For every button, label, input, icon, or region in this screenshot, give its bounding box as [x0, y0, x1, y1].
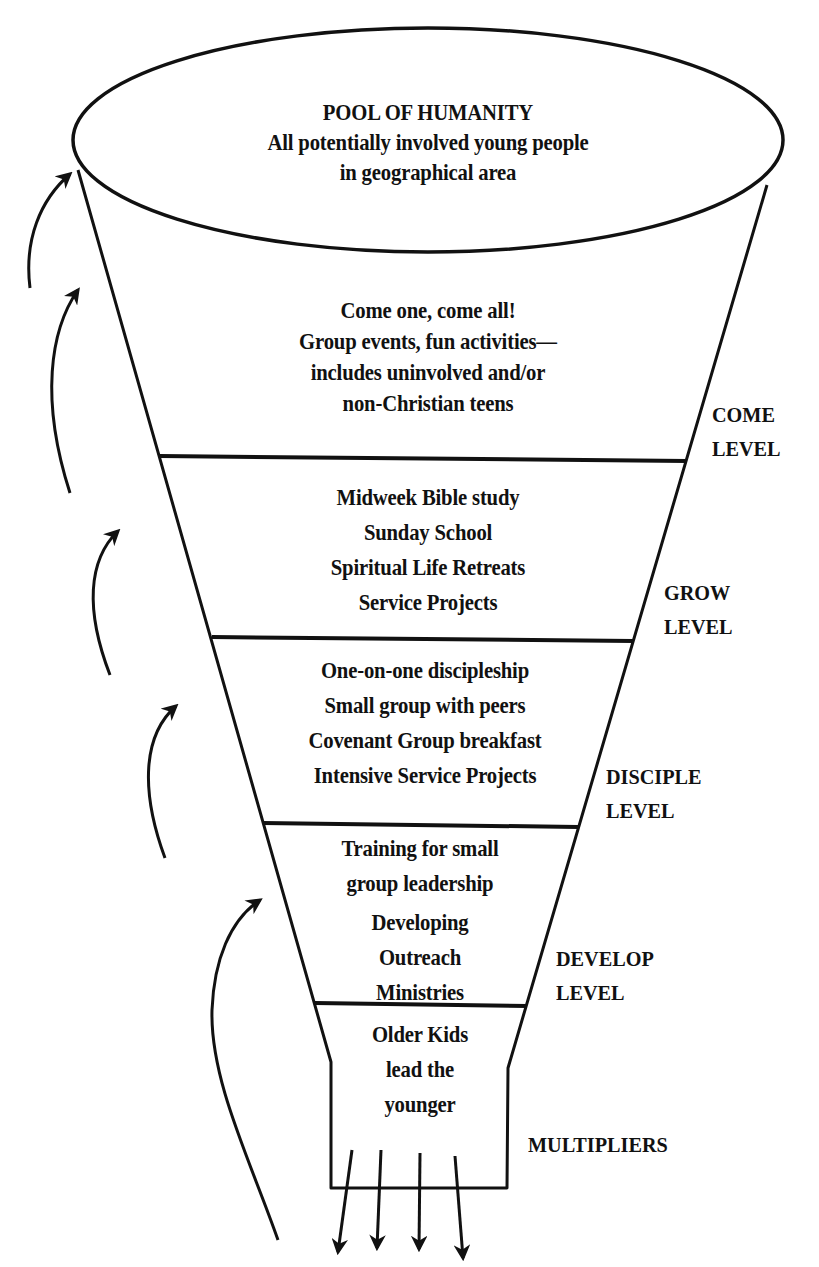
- level-line: younger: [330, 1087, 510, 1122]
- level-line: Sunday School: [212, 515, 644, 550]
- divider-grow-disciple: [212, 637, 633, 641]
- level-come-text: Come one, come all! Group events, fun ac…: [203, 295, 653, 419]
- level-grow-text: Midweek Bible study Sunday School Spirit…: [212, 480, 644, 620]
- level-line: Ministries: [285, 975, 555, 1010]
- level-line: Intensive Service Projects: [218, 758, 632, 793]
- arrow-up-icon: [148, 706, 176, 858]
- arrow-up-icon: [29, 174, 70, 288]
- pool-line: All potentially involved young people: [203, 128, 653, 158]
- level-line: Small group with peers: [218, 688, 632, 723]
- arrow-down-icon: [377, 1150, 381, 1248]
- arrow-up-icon: [52, 290, 78, 493]
- level-develop-text: Training for small group leadership Deve…: [285, 831, 555, 1010]
- level-line: Outreach: [285, 940, 555, 975]
- level-disciple-text: One-on-one discipleship Small group with…: [218, 653, 632, 793]
- level-come-label: COME LEVEL: [712, 398, 781, 466]
- arrow-down-icon: [419, 1153, 420, 1249]
- level-multipliers-label: MULTIPLIERS: [528, 1128, 668, 1162]
- level-line: Older Kids: [330, 1017, 510, 1052]
- level-line: Come one, come all!: [203, 295, 653, 326]
- level-line: One-on-one discipleship: [218, 653, 632, 688]
- level-develop-label: DEVELOP LEVEL: [556, 942, 654, 1010]
- level-line: Midweek Bible study: [212, 480, 644, 515]
- pool-line: in geographical area: [203, 158, 653, 188]
- arrow-up-icon: [212, 900, 278, 1240]
- level-disciple-label: DISCIPLE LEVEL: [606, 760, 702, 828]
- level-grow-label: GROW LEVEL: [664, 576, 733, 644]
- arrow-down-icon: [338, 1150, 352, 1252]
- divider-come-grow: [160, 456, 687, 461]
- level-line: group leadership: [285, 866, 555, 901]
- output-arrows: [338, 1150, 463, 1258]
- level-line: Covenant Group breakfast: [218, 723, 632, 758]
- level-line: non-Christian teens: [203, 388, 653, 419]
- pool-text: POOL OF HUMANITY All potentially involve…: [203, 98, 653, 188]
- level-line: Training for small: [285, 831, 555, 866]
- level-line: Spiritual Life Retreats: [212, 550, 644, 585]
- level-line: includes uninvolved and/or: [203, 357, 653, 388]
- level-line: Developing: [285, 905, 555, 940]
- arrow-down-icon: [455, 1156, 463, 1258]
- level-line: Service Projects: [212, 585, 644, 620]
- arrow-up-icon: [93, 531, 118, 675]
- level-multipliers-text: Older Kids lead the younger: [330, 1017, 510, 1122]
- divider-disciple-develop: [263, 823, 578, 827]
- level-line: Group events, fun activities—: [203, 326, 653, 357]
- level-line: lead the: [330, 1052, 510, 1087]
- pool-title: POOL OF HUMANITY: [203, 98, 653, 128]
